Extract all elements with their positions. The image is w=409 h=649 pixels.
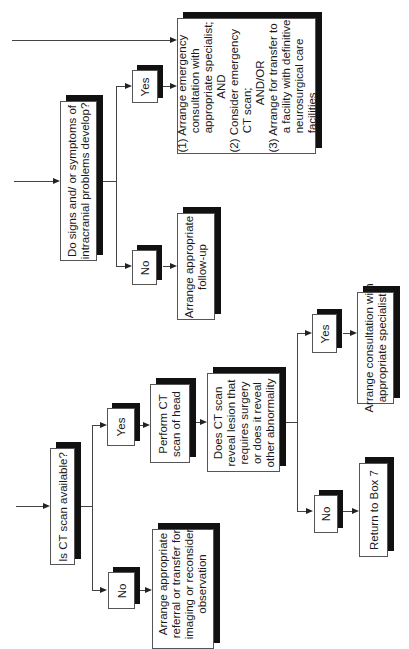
arrowhead-icon: [145, 587, 152, 593]
referral-text: Arrange appropriate referral or transfer…: [157, 529, 209, 640]
arrowhead-icon: [200, 419, 207, 425]
referral-box: Arrange appropriate referral or transfer…: [152, 529, 214, 649]
arrowhead-icon: [170, 263, 177, 269]
decision-ct-available: Is CT scan available?: [50, 448, 75, 565]
return-box7-text: Return to Box 7: [367, 470, 380, 550]
decision-signs-symptoms: Do signs and/ or symptoms of intracrania…: [60, 101, 97, 261]
yes-text: Yes: [139, 77, 152, 96]
emergency-actions-box: (1) Arrange emergency consultation with …: [177, 18, 316, 154]
return-box7-box: Return to Box 7: [359, 463, 388, 557]
no-label-signs: No: [132, 250, 157, 285]
connector-line: [92, 425, 93, 591]
follow-up-text: Arrange appropriate follow-up: [183, 215, 209, 317]
arrowhead-icon: [350, 330, 357, 336]
consult-specialist-box: Arrange consultation with appropriate sp…: [357, 292, 394, 404]
arrowhead-icon: [43, 503, 50, 509]
arrowhead-icon: [100, 587, 107, 593]
decision-ct-available-text: Is CT scan available?: [56, 452, 69, 562]
connector-line: [297, 333, 298, 512]
no-label-reveal: No: [314, 495, 338, 533]
arrowhead-icon: [352, 508, 359, 514]
follow-up-box: Arrange appropriate follow-up: [177, 213, 215, 320]
arrowhead-icon: [100, 422, 107, 428]
connector-line: [12, 40, 172, 41]
decision-ct-reveal-text: Does CT scan reveal lesion that requires…: [211, 378, 276, 467]
connector-line: [14, 181, 54, 182]
yes-label-reveal: Yes: [312, 314, 337, 353]
arrowhead-icon: [306, 508, 313, 514]
yes-label-signs: Yes: [132, 70, 158, 103]
emergency-actions-text: (1) Arrange emergency consultation with …: [175, 20, 318, 153]
no-label-ct: No: [108, 572, 135, 609]
arrowhead-icon: [53, 178, 60, 184]
no-text: No: [115, 583, 128, 598]
perform-ct-box: Perform CT scan of head: [150, 384, 190, 463]
consult-specialist-text: Arrange consultation with appropriate sp…: [363, 283, 389, 412]
no-text: No: [138, 260, 151, 275]
decision-ct-reveal: Does CT scan reveal lesion that requires…: [207, 373, 280, 472]
yes-text: Yes: [318, 324, 331, 343]
yes-text: Yes: [115, 418, 128, 437]
arrowhead-icon: [125, 263, 132, 269]
arrowhead-icon: [305, 330, 312, 336]
no-text: No: [320, 507, 333, 522]
connector-line: [116, 86, 117, 267]
connector-line: [16, 506, 44, 507]
arrowhead-icon: [125, 83, 132, 89]
connector-line: [103, 181, 117, 182]
arrowhead-icon: [143, 422, 150, 428]
perform-ct-text: Perform CT scan of head: [157, 391, 183, 457]
yes-label-ct: Yes: [107, 408, 135, 446]
decision-signs-symptoms-text: Do signs and/ or symptoms of intracrania…: [66, 103, 92, 260]
